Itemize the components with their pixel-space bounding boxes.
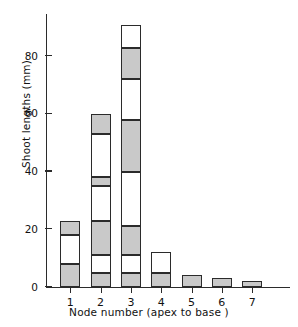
bar-node-7	[242, 281, 262, 287]
bar-segment	[121, 226, 141, 255]
bar-segment	[91, 186, 111, 221]
plot-area: 020406080 1234567	[46, 14, 290, 288]
y-axis-tick-label: 20	[2, 224, 38, 235]
y-axis-tick-label: 0	[2, 282, 38, 293]
y-axis-tick-label: 40	[2, 166, 38, 177]
bar-node-2	[91, 114, 111, 287]
bar-segment	[242, 281, 262, 287]
bar-segment	[121, 79, 141, 119]
x-axis-tick	[70, 288, 71, 293]
bar-segment	[60, 221, 80, 235]
x-axis-tick	[101, 288, 102, 293]
bar-segment	[121, 25, 141, 48]
bar-segment	[60, 264, 80, 287]
bar-segment	[182, 275, 202, 287]
x-axis-tick	[252, 288, 253, 293]
bar-segment	[121, 255, 141, 272]
bar-segment	[121, 172, 141, 227]
x-axis-tick	[131, 288, 132, 293]
x-axis-tick	[222, 288, 223, 293]
y-axis-tick	[45, 228, 52, 229]
bar-segment	[121, 48, 141, 80]
bar-segment	[121, 120, 141, 172]
shoot-lengths-bar-chart: Shoot lengths (mm) 020406080 1234567 Nod…	[0, 0, 298, 327]
bar-segment	[91, 177, 111, 186]
bar-segment	[151, 273, 171, 287]
y-axis-tick	[45, 170, 52, 171]
bar-segment	[91, 273, 111, 287]
bar-segment	[91, 255, 111, 272]
bar-node-5	[182, 275, 202, 287]
y-axis-tick-label: 80	[2, 51, 38, 62]
x-axis-title: Node number (apex to base )	[0, 306, 298, 318]
bar-segment	[151, 252, 171, 272]
bar-segment	[121, 273, 141, 287]
bar-segment	[212, 278, 232, 287]
bar-segment	[91, 134, 111, 177]
bar-segment	[91, 221, 111, 256]
bar-segment	[60, 235, 80, 264]
y-axis-tick	[45, 113, 52, 114]
bar-node-3	[121, 25, 141, 287]
bar-node-4	[151, 252, 171, 287]
x-axis-tick	[161, 288, 162, 293]
y-axis-tick-label: 60	[2, 108, 38, 119]
x-axis-tick	[192, 288, 193, 293]
bar-node-6	[212, 278, 232, 287]
bar-node-1	[60, 221, 80, 287]
y-axis-tick	[45, 286, 52, 287]
bar-segment	[91, 114, 111, 134]
y-axis-tick	[45, 55, 52, 56]
